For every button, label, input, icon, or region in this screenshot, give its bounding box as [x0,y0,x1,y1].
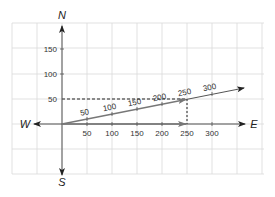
east-label: E [250,118,258,130]
x-tick-label: 250 [180,129,194,138]
x-tick-label: 100 [105,129,119,138]
resultant-tick-label: 50 [79,107,90,118]
y-tick-label: 50 [48,95,57,104]
south-label: S [58,176,66,188]
x-tick-label: 200 [155,129,169,138]
resultant-tick-label: 100 [102,102,117,113]
north-label: N [58,9,66,21]
west-label: W [20,118,32,130]
y-tick-label: 150 [44,45,58,54]
x-tick-label: 150 [130,129,144,138]
x-tick-label: 50 [83,129,92,138]
x-tick-label: 300 [205,129,219,138]
vector-diagram: 50 100 150 200 250 300 50 100 150 50 100… [0,0,275,197]
resultant-tick-label: 300 [202,82,217,93]
y-tick-label: 100 [44,70,58,79]
resultant-tick-label: 200 [152,92,167,103]
resultant-tick-label: 150 [127,97,142,108]
resultant-tick-label: 250 [177,87,192,98]
